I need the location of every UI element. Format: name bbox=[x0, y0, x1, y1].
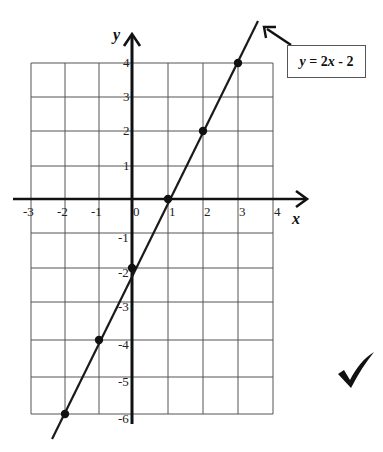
data-point bbox=[95, 336, 103, 344]
y-tick-label: -4 bbox=[118, 337, 129, 352]
y-tick-label: 4 bbox=[123, 55, 130, 70]
x-axis-label: x bbox=[291, 210, 300, 227]
axes bbox=[13, 34, 307, 424]
data-point bbox=[234, 59, 242, 67]
line-y-2x-minus-2 bbox=[52, 21, 258, 439]
y-tick-label: -6 bbox=[118, 411, 129, 426]
x-tick-label: 2 bbox=[204, 204, 211, 219]
y-tick-label: 1 bbox=[123, 158, 130, 173]
equation-x: x bbox=[328, 54, 335, 70]
data-point bbox=[128, 264, 136, 272]
checkmark-icon bbox=[336, 348, 376, 392]
equation-eq: = 2 bbox=[306, 54, 328, 70]
y-tick-label: -2 bbox=[118, 265, 129, 280]
equation-rest: - 2 bbox=[335, 54, 354, 70]
data-point bbox=[164, 195, 172, 203]
x-tick-label: 4 bbox=[274, 204, 281, 219]
x-tick-label: -2 bbox=[57, 204, 68, 219]
line-plot bbox=[52, 21, 258, 439]
tick-labels: -3-2-1012344321-1-2-3-4-5-6 bbox=[23, 55, 281, 426]
y-tick-label: -1 bbox=[118, 230, 129, 245]
x-tick-label: 3 bbox=[239, 204, 246, 219]
x-tick-label: 1 bbox=[169, 204, 176, 219]
x-tick-label: -1 bbox=[91, 204, 102, 219]
data-point bbox=[199, 127, 207, 135]
equation-label-box: y = 2x - 2 bbox=[287, 45, 366, 78]
y-tick-label: 3 bbox=[123, 89, 130, 104]
y-axis-label: y bbox=[111, 26, 121, 44]
x-tick-label: 0 bbox=[133, 204, 140, 219]
x-tick-label: -3 bbox=[23, 204, 34, 219]
data-point bbox=[61, 410, 69, 418]
y-tick-label: 2 bbox=[123, 123, 130, 138]
y-tick-label: -5 bbox=[118, 374, 129, 389]
annotation-arrow-icon bbox=[264, 27, 291, 45]
